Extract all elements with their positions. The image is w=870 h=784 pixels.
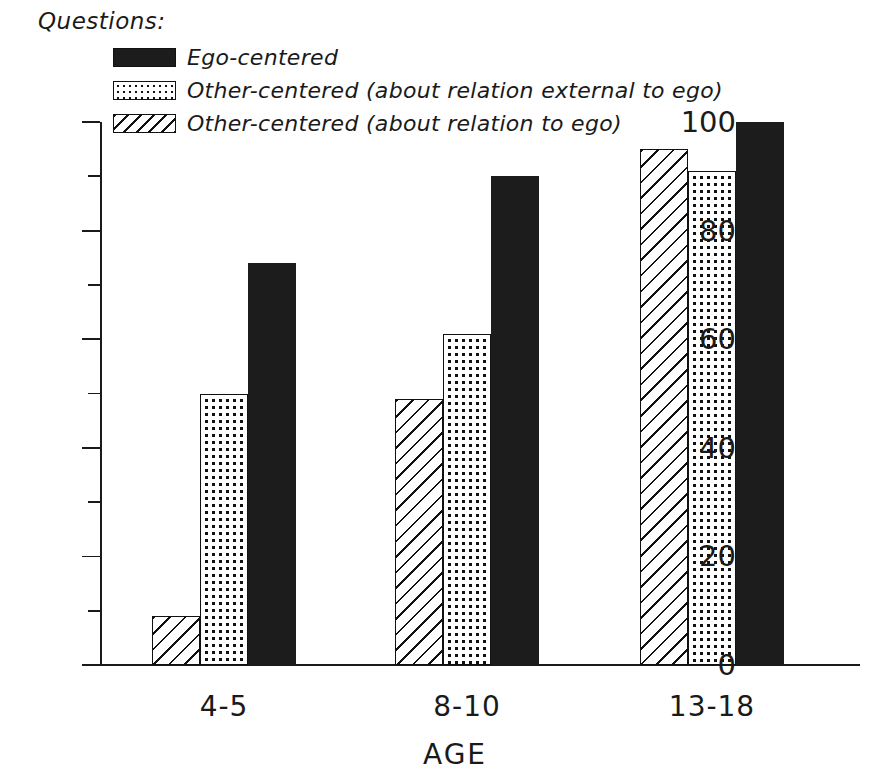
y-tick-major <box>82 447 100 449</box>
legend-item-ego-centered: Ego-centered <box>113 44 723 71</box>
bar <box>443 334 491 665</box>
x-tick-label: 4-5 <box>200 690 249 723</box>
bar <box>395 399 443 665</box>
bar <box>200 394 248 666</box>
bar <box>248 263 296 665</box>
x-tick-label: 13-18 <box>669 690 755 723</box>
y-tick-major <box>82 664 100 666</box>
bar-chart-figure: Questions: Ego-centered Other-centered (… <box>0 0 870 784</box>
y-axis-line <box>100 122 102 665</box>
legend-title: Questions: <box>38 8 166 34</box>
y-tick-major <box>82 338 100 340</box>
legend-label: Ego-centered <box>187 45 338 70</box>
x-axis-title: AGE <box>423 738 487 771</box>
legend-swatch-dotted-icon <box>113 81 176 100</box>
y-tick-major <box>82 230 100 232</box>
y-tick-minor <box>88 393 100 395</box>
y-tick-label: 60 <box>699 325 736 354</box>
y-tick-minor <box>88 501 100 503</box>
y-tick-minor <box>88 175 100 177</box>
y-tick-minor <box>88 284 100 286</box>
y-tick-label: 40 <box>699 433 736 462</box>
y-tick-label: 0 <box>718 651 736 680</box>
bar <box>491 176 539 665</box>
bar <box>736 122 784 665</box>
y-tick-major <box>82 556 100 558</box>
y-tick-label: 100 <box>681 108 736 137</box>
bar <box>640 149 688 665</box>
legend-item-other-centered-external: Other-centered (about relation external … <box>113 77 723 104</box>
y-tick-label: 80 <box>699 216 736 245</box>
bar <box>152 616 200 665</box>
plot-area: 020406080100 <box>100 122 860 665</box>
legend-swatch-solid-black-icon <box>113 48 176 67</box>
y-tick-major <box>82 121 100 123</box>
legend-label: Other-centered (about relation external … <box>187 78 723 103</box>
y-tick-label: 20 <box>699 542 736 571</box>
x-tick-label: 8-10 <box>433 690 501 723</box>
y-tick-minor <box>88 610 100 612</box>
